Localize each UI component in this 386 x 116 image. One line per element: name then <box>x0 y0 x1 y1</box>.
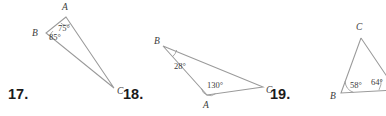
triangle-figure-19: C B 58° 64° <box>0 0 386 116</box>
vertex-label-19-C: C <box>356 22 363 32</box>
worksheet-canvas: A B C 75° 85° B A C 28° 130° C B 58° 64°… <box>0 0 386 116</box>
problem-number-18: 18. <box>123 86 143 102</box>
problem-number-19: 19. <box>270 86 290 102</box>
angle-label-19-right: 64° <box>371 77 383 87</box>
angle-label-19-B: 58° <box>350 80 362 90</box>
vertex-label-19-B: B <box>330 91 336 101</box>
problem-number-17: 17. <box>8 86 28 102</box>
